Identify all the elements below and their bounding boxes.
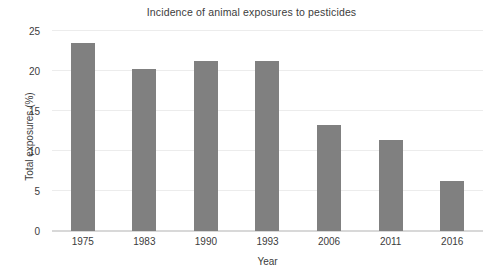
- bar[interactable]: [255, 61, 279, 231]
- x-axis-title: Year: [52, 256, 483, 267]
- bar-slot: [114, 31, 176, 231]
- y-axis-tick-label: 5: [34, 186, 40, 197]
- x-axis-tick-label: 1975: [72, 236, 94, 247]
- bar-slot: [175, 31, 237, 231]
- chart-title: Incidence of animal exposures to pestici…: [0, 6, 503, 18]
- bar[interactable]: [194, 61, 218, 231]
- bar-chart-figure: Incidence of animal exposures to pestici…: [0, 0, 503, 280]
- y-axis-title: Total exposures (%): [24, 57, 35, 217]
- bar[interactable]: [379, 140, 403, 231]
- x-axis-tick-labels: 1975198319901993200620112016: [52, 236, 483, 252]
- bar-slot: [237, 31, 299, 231]
- bar[interactable]: [132, 69, 156, 231]
- x-axis-tick-label: 2016: [441, 236, 463, 247]
- bar[interactable]: [440, 181, 464, 231]
- x-axis-tick-label: 1990: [195, 236, 217, 247]
- bar[interactable]: [71, 43, 95, 231]
- x-axis-line: [52, 231, 483, 232]
- bar[interactable]: [317, 125, 341, 231]
- y-axis-tick-label: 25: [29, 26, 40, 37]
- x-axis-tick-label: 1983: [133, 236, 155, 247]
- plot-area: [52, 31, 483, 231]
- x-axis-tick-label: 1993: [256, 236, 278, 247]
- bar-slot: [421, 31, 483, 231]
- x-axis-tick-label: 2011: [380, 236, 402, 247]
- bar-slot: [52, 31, 114, 231]
- bars-layer: [52, 31, 483, 231]
- y-axis-tick-label: 0: [34, 226, 40, 237]
- bar-slot: [298, 31, 360, 231]
- x-axis-tick-label: 2006: [318, 236, 340, 247]
- bar-slot: [360, 31, 422, 231]
